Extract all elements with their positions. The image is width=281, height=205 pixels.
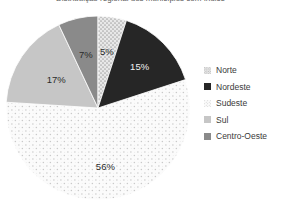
pie-label-sudeste: 56%: [96, 161, 116, 172]
pie-label-nordeste: 15%: [130, 61, 150, 72]
legend-item-nordeste[interactable]: Nordeste: [204, 79, 281, 96]
pie-label-sul: 17%: [47, 74, 67, 85]
legend-item-sul[interactable]: Sul: [204, 112, 281, 129]
legend-label-norte: Norte: [216, 66, 237, 75]
legend-swatch-sudeste-icon: [204, 100, 211, 107]
legend-label-sul: Sul: [216, 116, 228, 125]
legend-item-sudeste[interactable]: Sudeste: [204, 95, 281, 112]
legend-label-centro-oeste: Centro-Oeste: [216, 132, 267, 141]
legend-swatch-nordeste-icon: [204, 83, 211, 90]
chart-legend: Norte Nordeste Sudeste Sul Centro-Oeste: [204, 62, 281, 145]
pie-label-centro-oeste: 7%: [79, 49, 93, 60]
legend-swatch-norte-icon: [204, 67, 211, 74]
legend-item-centro-oeste[interactable]: Centro-Oeste: [204, 128, 281, 145]
legend-label-nordeste: Nordeste: [216, 83, 251, 92]
legend-item-norte[interactable]: Norte: [204, 62, 281, 79]
pie-chart-figure: Distribuição regional dos municípios com…: [0, 0, 281, 205]
legend-swatch-sul-icon: [204, 116, 211, 123]
legend-swatch-centro-oeste-icon: [204, 133, 211, 140]
pie-label-norte: 5%: [100, 46, 114, 57]
legend-label-sudeste: Sudeste: [216, 99, 247, 108]
